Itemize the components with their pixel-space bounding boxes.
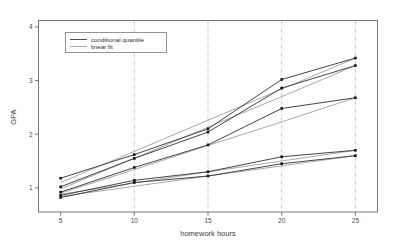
data-marker — [207, 170, 210, 173]
chart-root: 1234 510152025 homework hours GPA condit… — [0, 0, 396, 243]
y-axis-label: GPA — [9, 109, 18, 124]
data-marker — [354, 154, 357, 157]
data-marker — [280, 107, 283, 110]
x-tick-label-5: 5 — [59, 217, 63, 224]
data-marker — [280, 87, 283, 90]
gpa-vs-homework-hours-chart: 1234 510152025 homework hours GPA condit… — [0, 0, 396, 243]
chart-legend: conditional quantile linear fit — [66, 33, 167, 53]
data-marker — [207, 128, 210, 131]
chart-background — [0, 0, 396, 243]
y-tick-label-3: 3 — [29, 77, 33, 84]
data-marker — [354, 64, 357, 67]
data-marker — [354, 149, 357, 152]
data-marker — [133, 181, 136, 184]
data-marker — [59, 185, 62, 188]
data-marker — [133, 157, 136, 160]
data-marker — [207, 175, 210, 178]
data-marker — [280, 155, 283, 158]
y-tick-label-2: 2 — [29, 131, 33, 138]
data-marker — [280, 162, 283, 165]
x-tick-label-10: 10 — [131, 217, 139, 224]
data-marker — [207, 144, 210, 147]
y-tick-label-1: 1 — [29, 184, 33, 191]
data-marker — [280, 78, 283, 81]
x-tick-label-25: 25 — [352, 217, 360, 224]
data-marker — [354, 96, 357, 99]
legend-label-conditional-quantile: conditional quantile — [91, 36, 145, 43]
data-marker — [59, 191, 62, 194]
y-tick-label-4: 4 — [29, 23, 33, 30]
legend-label-linear-fit: linear fit — [91, 43, 113, 50]
data-marker — [59, 177, 62, 180]
x-tick-label-20: 20 — [278, 217, 286, 224]
data-marker — [59, 196, 62, 199]
data-marker — [354, 57, 357, 60]
data-marker — [133, 153, 136, 156]
data-marker — [133, 166, 136, 169]
x-axis-label: homework hours — [180, 229, 236, 238]
x-tick-label-15: 15 — [204, 217, 212, 224]
data-marker — [207, 131, 210, 134]
